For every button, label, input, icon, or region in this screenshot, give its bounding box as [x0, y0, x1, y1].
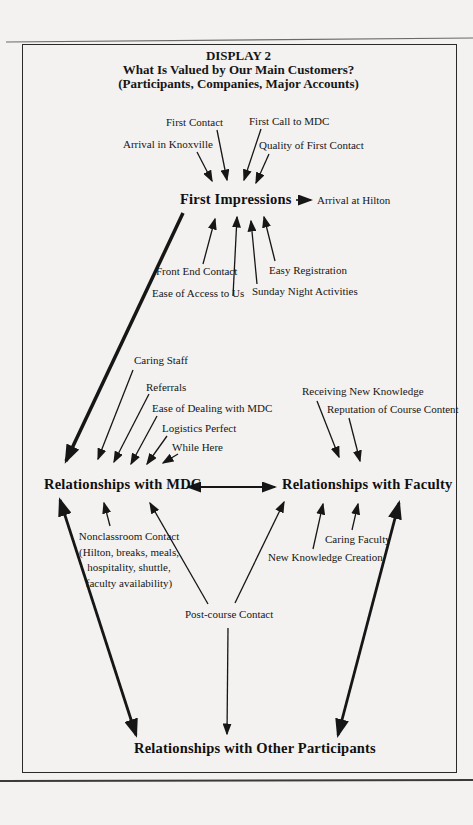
label-ease-dealing: Ease of Dealing with MDC	[152, 402, 272, 415]
label-first-contact: First Contact	[166, 116, 223, 129]
label-nonclassroom-line1: Nonclassroom Contact	[55, 529, 203, 545]
node-relationships-participants: Relationships with Other Participants	[134, 740, 376, 756]
label-nonclassroom-block: Nonclassroom Contact (Hilton, breaks, me…	[55, 529, 203, 591]
label-front-end-contact: Front End Contact	[156, 265, 237, 278]
node-relationships-faculty: Relationships with Faculty	[282, 476, 452, 492]
label-ease-access: Ease of Access to Us	[152, 287, 244, 300]
node-relationships-mdc: Relationships with MDC	[44, 476, 201, 492]
label-new-knowledge: New Knowledge Creation	[268, 551, 383, 564]
label-while-here: While Here	[172, 441, 223, 454]
label-referrals: Referrals	[146, 381, 186, 394]
title-line-3: (Participants, Companies, Major Accounts…	[22, 77, 455, 91]
label-post-course: Post-course Contact	[185, 608, 273, 621]
scan-line-top	[6, 38, 473, 42]
label-easy-registration: Easy Registration	[269, 264, 347, 277]
label-caring-staff: Caring Staff	[134, 354, 188, 367]
diagram-title: DISPLAY 2 What Is Valued by Our Main Cus…	[22, 49, 455, 91]
title-line-1: DISPLAY 2	[22, 49, 455, 63]
label-sunday-night: Sunday Night Activities	[252, 285, 358, 298]
label-nonclassroom-line3: hospitality, shuttle,	[55, 560, 203, 576]
label-receiving-knowledge: Receiving New Knowledge	[302, 385, 424, 398]
scanned-diagram-page: DISPLAY 2 What Is Valued by Our Main Cus…	[0, 0, 473, 825]
label-reputation-content: Reputation of Course Content	[327, 403, 459, 416]
label-arrival-knoxville: Arrival in Knoxville	[123, 138, 213, 151]
label-nonclassroom-line4: faculty availability)	[55, 576, 203, 592]
node-first-impressions: First Impressions	[180, 191, 292, 207]
label-caring-faculty: Caring Faculty	[325, 533, 391, 546]
label-logistics-perfect: Logistics Perfect	[162, 422, 236, 435]
scan-line-bottom	[0, 780, 473, 781]
label-arrival-hilton: Arrival at Hilton	[317, 194, 390, 207]
label-nonclassroom-line2: (Hilton, breaks, meals,	[55, 545, 203, 561]
label-quality-first-contact: Quality of First Contact	[259, 139, 364, 152]
title-line-2: What Is Valued by Our Main Customers?	[22, 63, 455, 77]
label-first-call: First Call to MDC	[249, 115, 329, 128]
